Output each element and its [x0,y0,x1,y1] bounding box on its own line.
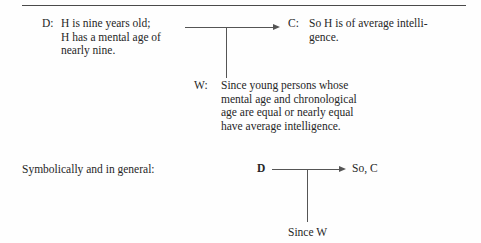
warrant-statement-text: Since young persons whose mental age and… [221,79,357,133]
top-horizontal-rule [22,5,466,6]
warrant-label-tag: W: [194,79,208,93]
symbolic-claim-symbol: So, C [352,162,378,176]
claim-statement-text: So H is of average intelli- gence. [309,17,427,44]
data-to-claim-arrowhead-icon [273,24,280,30]
data-statement-text: H is nine years old; H has a mental age … [61,17,161,58]
data-to-claim-arrow-shaft [185,27,275,28]
symbolic-section-label: Symbolically and in general: [22,163,155,177]
symbolic-warrant-connector-stem [307,169,308,222]
claim-label-tag: C: [288,17,299,31]
symbolic-warrant-symbol: Since W [288,226,327,240]
data-label-tag: D: [42,17,54,31]
warrant-connector-stem [226,27,227,78]
symbolic-data-symbol: D [257,162,265,176]
symbolic-arrowhead-icon [339,166,346,172]
figure-canvas: D: H is nine years old; H has a mental a… [0,0,481,243]
